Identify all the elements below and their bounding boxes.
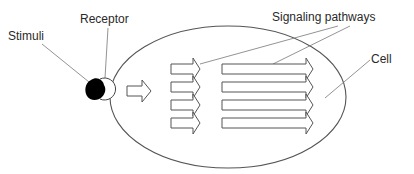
long-arrow-icon bbox=[222, 94, 313, 116]
pathway-leader-line-2 bbox=[273, 26, 350, 64]
stimuli-label: Stimuli bbox=[8, 30, 44, 42]
signaling-pathways-label: Signaling pathways bbox=[272, 11, 375, 23]
short-arrow-icon bbox=[171, 76, 200, 98]
short-arrow-icon bbox=[171, 112, 200, 134]
short-arrow-icon bbox=[171, 58, 200, 80]
long-arrow-icon bbox=[222, 112, 313, 134]
receptor-leader-line bbox=[105, 28, 108, 78]
entry-arrow-icon bbox=[127, 80, 151, 102]
long-arrow-icon bbox=[222, 58, 313, 80]
cell-leader-line bbox=[325, 60, 370, 98]
short-arrow-icon bbox=[171, 94, 200, 116]
cell-label: Cell bbox=[371, 53, 392, 65]
long-pathway-arrows bbox=[222, 58, 313, 134]
stimuli-leader-line bbox=[42, 44, 89, 82]
cell-signaling-diagram bbox=[0, 0, 414, 174]
short-pathway-arrows bbox=[171, 58, 200, 134]
long-arrow-icon bbox=[222, 76, 313, 98]
receptor-label: Receptor bbox=[80, 13, 129, 25]
pathway-leader-line-1 bbox=[200, 26, 338, 64]
